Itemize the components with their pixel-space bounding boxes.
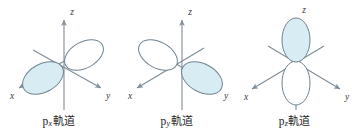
axis-label-x: x [243, 92, 249, 102]
axis-label-y: y [105, 91, 111, 101]
orbital-lobe-empty [133, 33, 182, 76]
caption-suffix: 軌道 [288, 115, 311, 128]
caption-suffix: 軌道 [52, 115, 75, 128]
orbital-lobe-filled [176, 55, 228, 101]
orbital-lobe-filled [17, 55, 69, 101]
p-orbital-shapes-figure: z x y px軌道 z x y py軌道 [0, 0, 353, 138]
orbital-diagram-pz: z x y [236, 0, 353, 116]
axis-label-z: z [301, 5, 306, 15]
orbital-panel-pz: z x y pz軌道 [236, 0, 353, 138]
orbital-lobe-filled [282, 18, 310, 62]
axis-label-x: x [9, 91, 15, 101]
orbital-panel-py: z x y py軌道 [118, 0, 235, 138]
axis-label-z: z [187, 7, 192, 17]
axis-label-y: y [223, 91, 229, 101]
axis-label-x: x [127, 91, 133, 101]
axis-label-z: z [69, 7, 74, 17]
orbital-lobe-empty [282, 61, 310, 105]
orbital-caption-py: py軌道 [118, 112, 235, 128]
caption-suffix: 軌道 [170, 115, 193, 128]
axis-label-y: y [344, 92, 350, 102]
orbital-diagram-py: z x y [118, 0, 235, 116]
orbital-panel-px: z x y px軌道 [0, 0, 117, 138]
orbital-caption-pz: pz軌道 [236, 112, 353, 128]
orbital-diagram-px: z x y [0, 0, 117, 116]
orbital-lobe-empty [59, 33, 108, 76]
orbital-caption-px: px軌道 [0, 112, 117, 128]
